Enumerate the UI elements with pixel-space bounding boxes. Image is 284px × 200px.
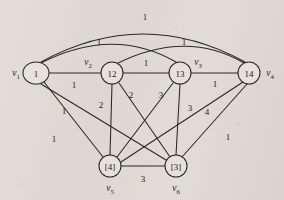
node-label: [4] <box>105 162 116 172</box>
vertex-name-label-v5: v5 <box>106 183 114 194</box>
edge-weight-label: 1 <box>72 80 77 90</box>
edge-weight-label: 1 <box>226 132 231 142</box>
graph-node-v4[interactable]: 14 <box>238 62 260 84</box>
vertex-name-label-v4: v4 <box>266 68 274 79</box>
graph-edge <box>121 82 243 162</box>
graph-edge <box>176 84 180 155</box>
graph-node-v2[interactable]: 12 <box>101 62 123 84</box>
graph-node-v5[interactable]: [4] <box>99 155 121 177</box>
graph-edge <box>116 46 244 64</box>
graph-node-v6[interactable]: [3] <box>165 155 187 177</box>
node-label: 12 <box>108 69 117 79</box>
edge-weight-label: 3 <box>159 90 164 100</box>
edges-layer <box>41 34 247 166</box>
edge-weight-label: 1 <box>52 134 57 144</box>
edge-weight-label: 1 <box>213 79 218 89</box>
graph-edge <box>182 84 247 157</box>
node-label: 14 <box>245 69 255 79</box>
vertex-name-label-v2: v2 <box>84 57 92 68</box>
edge-weight-label: 1 <box>143 12 148 22</box>
graph-edge <box>41 44 176 63</box>
graph-edge <box>44 82 103 157</box>
vertex-name-label-v3: v3 <box>194 57 202 68</box>
graph-node-v1[interactable]: 1 <box>23 62 49 84</box>
graph-edge <box>110 84 112 155</box>
graph-canvas: 1121314[4][3] 111111112233413 v1v2v3v4v5… <box>0 0 284 200</box>
edge-weight-label: 1 <box>182 37 187 47</box>
edge-weight-label: 3 <box>141 174 146 184</box>
graph-figure: 1121314[4][3] 111111112233413 v1v2v3v4v5… <box>0 0 284 200</box>
edge-weight-label: 1 <box>144 58 149 68</box>
graph-node-v3[interactable]: 13 <box>169 62 191 84</box>
edge-weight-label: 2 <box>129 90 134 100</box>
vertex-name-label-v6: v6 <box>172 183 180 194</box>
graph-edge <box>41 84 166 160</box>
vertex-name-label-v1: v1 <box>12 68 20 79</box>
node-label: 1 <box>34 69 39 79</box>
edge-weight-label: 2 <box>99 100 104 110</box>
nodes-layer: 1121314[4][3] <box>23 62 260 177</box>
edge-weight-label: 4 <box>205 107 210 117</box>
edge-weight-label: 1 <box>97 37 102 47</box>
node-label: [3] <box>171 162 182 172</box>
edge-weight-label: 3 <box>188 103 193 113</box>
edge-weight-label: 1 <box>62 106 67 116</box>
edge-weights-layer: 111111112233413 <box>52 12 231 184</box>
node-label: 13 <box>176 69 186 79</box>
